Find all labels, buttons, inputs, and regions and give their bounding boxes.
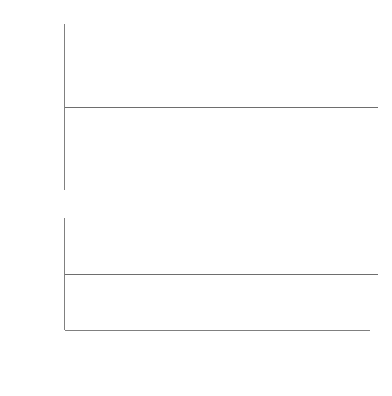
chart-canvas — [0, 0, 392, 396]
panel-imbalance — [65, 218, 379, 331]
chart-figure — [0, 0, 392, 396]
panel-cost-index — [65, 24, 379, 190]
